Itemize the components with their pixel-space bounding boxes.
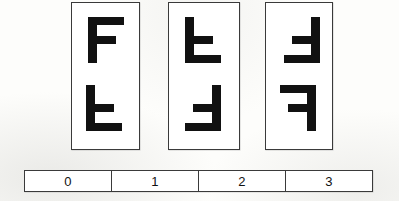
scale-cell-3[interactable]: 3 bbox=[285, 171, 372, 191]
glyph-f-flip-vertical bbox=[185, 17, 223, 63]
scale-cell-0[interactable]: 0 bbox=[25, 171, 111, 191]
panel-2 bbox=[265, 2, 333, 150]
glyph-f-flip-vertical bbox=[86, 85, 124, 131]
figure-page: 0123 bbox=[0, 0, 399, 201]
glyph-f-upright bbox=[88, 17, 126, 63]
panel-0 bbox=[71, 2, 140, 150]
glyph-f-rotated-180 bbox=[183, 85, 221, 131]
glyph-f-rotated-180 bbox=[282, 17, 320, 63]
panel-1 bbox=[168, 2, 240, 150]
glyph-f-mirror-horizontal bbox=[278, 85, 316, 131]
scale-cell-2[interactable]: 2 bbox=[198, 171, 285, 191]
scale-cell-1[interactable]: 1 bbox=[111, 171, 198, 191]
scale-bar: 0123 bbox=[24, 170, 373, 192]
